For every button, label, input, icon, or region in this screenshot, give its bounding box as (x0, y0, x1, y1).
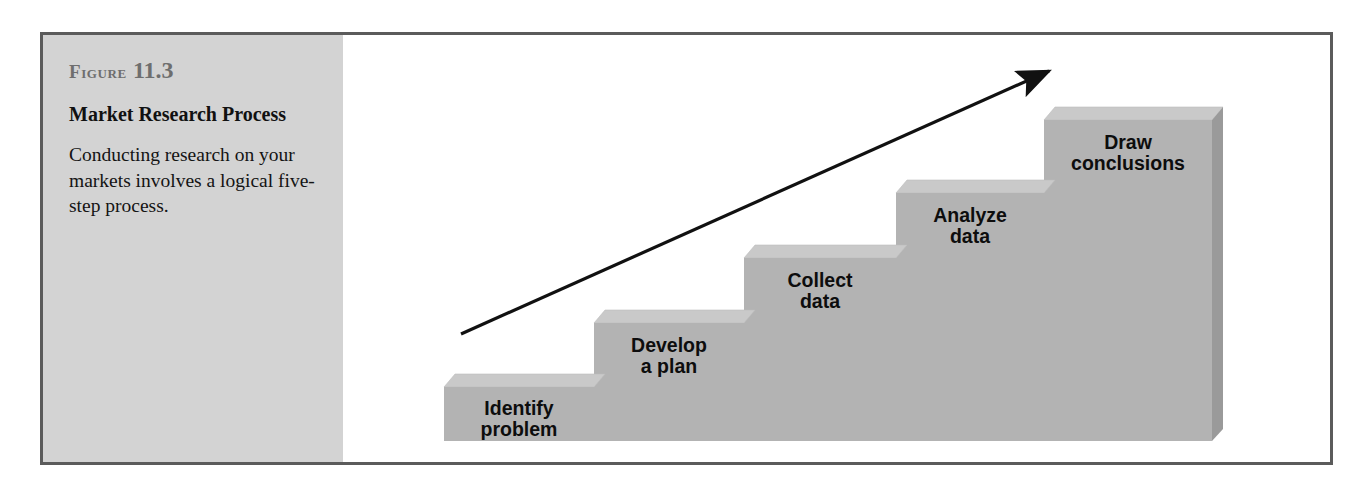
figure-frame: Figure 11.3 Market Research Process Cond… (40, 32, 1333, 465)
step-2-top-face (594, 310, 755, 323)
figure-title: Market Research Process (69, 103, 317, 126)
diagram-panel: Identify problem Develop a plan Collect … (343, 35, 1330, 462)
figure-number-value: 11.3 (133, 57, 174, 83)
step-2-label-line2: a plan (641, 355, 697, 377)
step-3-label-line1: Collect (787, 269, 853, 291)
caption-panel: Figure 11.3 Market Research Process Cond… (43, 35, 343, 462)
step-5-label-line1: Draw (1104, 131, 1153, 153)
step-4-label-line2: data (950, 225, 990, 247)
figure-number: Figure 11.3 (69, 57, 317, 83)
step-4-top-face (896, 180, 1055, 193)
step-5-top-face (1044, 107, 1223, 120)
figure-root: Figure 11.3 Market Research Process Cond… (0, 0, 1366, 488)
step-1-label: Identify problem (481, 397, 558, 440)
figure-number-word: Figure (69, 61, 127, 82)
step-3-top-face (744, 245, 907, 258)
step-1-label-line1: Identify (484, 397, 553, 419)
step-3-label-line2: data (800, 290, 840, 312)
step-5-label-line2: conclusions (1071, 152, 1185, 174)
step-4-label-line1: Analyze (933, 204, 1007, 226)
step-2-label: Develop a plan (631, 334, 707, 377)
step-1-top-face (444, 374, 605, 387)
step-5-side-face (1212, 107, 1223, 441)
staircase-diagram: Identify problem Develop a plan Collect … (343, 35, 1330, 462)
figure-description: Conducting research on your markets invo… (69, 142, 317, 218)
step-1-label-line2: problem (481, 418, 558, 440)
step-2-label-line1: Develop (631, 334, 707, 356)
